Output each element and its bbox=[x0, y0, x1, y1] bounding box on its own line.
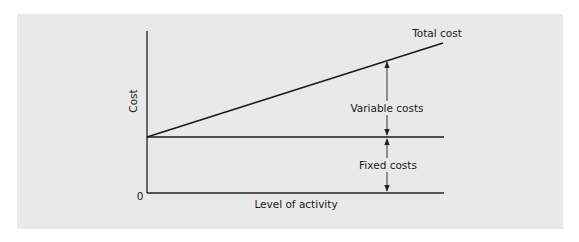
total-cost-label: Total cost bbox=[411, 27, 462, 39]
fixed-costs-label: Fixed costs bbox=[359, 159, 417, 171]
y-axis-label: Cost bbox=[127, 89, 139, 112]
origin-label: 0 bbox=[137, 190, 144, 202]
cost-behavior-diagram: Total cost Variable costs Fixed costs Le… bbox=[0, 0, 579, 242]
total-cost-line bbox=[147, 43, 443, 137]
x-axis-label: Level of activity bbox=[254, 198, 337, 210]
variable-costs-label: Variable costs bbox=[350, 102, 423, 114]
